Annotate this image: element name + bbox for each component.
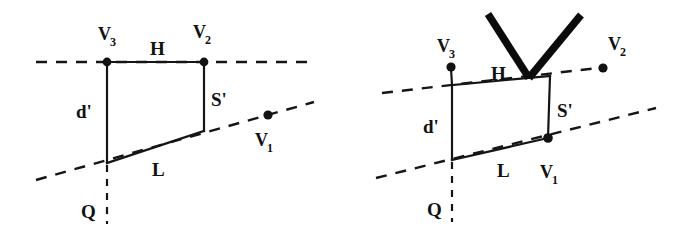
left-vertex-v2-dot [200,58,209,67]
right-label-s-prime: S' [557,100,573,121]
right-vertex-v2-dot [598,63,607,72]
right-label-q: Q [427,199,442,220]
right-diagram: V 3 V 2 V 1 H S' d' L Q [376,14,656,222]
right-vertex-v3-dot [446,62,455,71]
left-diagram: V 3 V 2 V 1 H S' d' L Q [36,22,314,224]
right-lower-dashed-line [376,108,656,178]
left-label-v2-subscript: 2 [205,33,211,47]
left-vertex-v3-dot [103,58,112,67]
left-label-h: H [150,38,165,59]
left-label-s-prime: S' [211,89,227,110]
right-vertex-v1-dot [543,133,553,143]
left-vertex-v1-dot [263,110,272,119]
right-label-v1-subscript: 1 [552,173,558,187]
right-edge-s-prime [548,76,550,138]
arrow-right-stroke [529,15,581,78]
left-label-l: L [152,159,165,180]
left-label-d-prime: d' [76,101,92,122]
right-label-d-prime: d' [423,116,439,137]
left-label-v1-subscript: 1 [267,141,273,155]
right-edge-l [452,138,548,160]
right-label-v3-subscript: 3 [449,47,455,61]
left-label-q: Q [81,201,96,222]
left-label-v3-subscript: 3 [110,35,116,49]
figure-container: V 3 V 2 V 1 H S' d' L Q [0,0,680,245]
figure-svg: V 3 V 2 V 1 H S' d' L Q [0,0,680,245]
right-label-h: H [491,63,506,84]
right-label-l: L [497,160,510,181]
right-label-v2-subscript: 2 [620,45,626,59]
